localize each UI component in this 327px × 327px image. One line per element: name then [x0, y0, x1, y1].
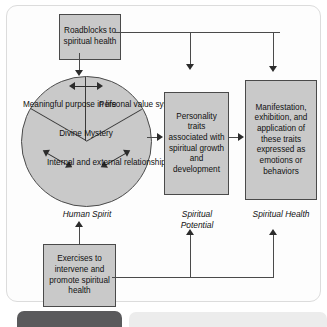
- connector-exercises-trunk: [112, 277, 274, 278]
- bottom-bar-light[interactable]: [129, 312, 327, 327]
- box-manifestation: Manifestation, exhibition, and applicati…: [245, 80, 317, 200]
- connector-trunk-to-personality: [190, 32, 191, 66]
- circle-label-divine-mystery: Divine Mystery: [57, 129, 115, 140]
- diagram-panel: Roadblocks to spiritual health: [6, 5, 321, 302]
- arrowhead-into-human-spirit: [75, 221, 83, 227]
- arrowhead-into-manifestation-top: [269, 66, 277, 72]
- arrowhead-into-spiritual-health: [269, 229, 277, 235]
- bottom-bar-dark[interactable]: [17, 311, 122, 327]
- stage-label-spiritual-potential: Spiritual Potential: [165, 209, 229, 230]
- arrowhead-into-circle: [75, 70, 83, 76]
- circle-label-meaningful-purpose: Meaningful purpose in life: [23, 100, 85, 111]
- arrowhead-into-manifestation-left: [238, 133, 244, 141]
- connector-trunk-to-spiritual-potential: [190, 234, 191, 277]
- circle-label-internal-external-relationships: Internal and external relationships: [47, 158, 127, 169]
- exchange-arrow-top: [69, 82, 103, 91]
- connector-exercises-to-human-spirit: [79, 226, 80, 245]
- stage-label-human-spirit: Human Spirit: [37, 209, 137, 220]
- connector-trunk-to-manifestation: [273, 32, 274, 68]
- connector-trunk-to-spiritual-health: [273, 234, 274, 277]
- diagram-screenshot: Roadblocks to spiritual health: [0, 0, 327, 327]
- arrowhead-into-spiritual-potential: [186, 229, 194, 235]
- circle-label-personal-value-system: Personal value system: [99, 100, 149, 111]
- arrowhead-into-personality-top: [186, 64, 194, 70]
- connector-roadblocks-trunk: [114, 32, 280, 33]
- box-exercises: Exercises to intervene and promote spiri…: [43, 244, 116, 307]
- stage-label-spiritual-health: Spiritual Health: [247, 209, 315, 220]
- box-roadblocks: Roadblocks to spiritual health: [59, 14, 121, 60]
- box-personality-traits: Personality traits associated with spiri…: [164, 92, 229, 195]
- arrowhead-into-personality-left: [157, 133, 163, 141]
